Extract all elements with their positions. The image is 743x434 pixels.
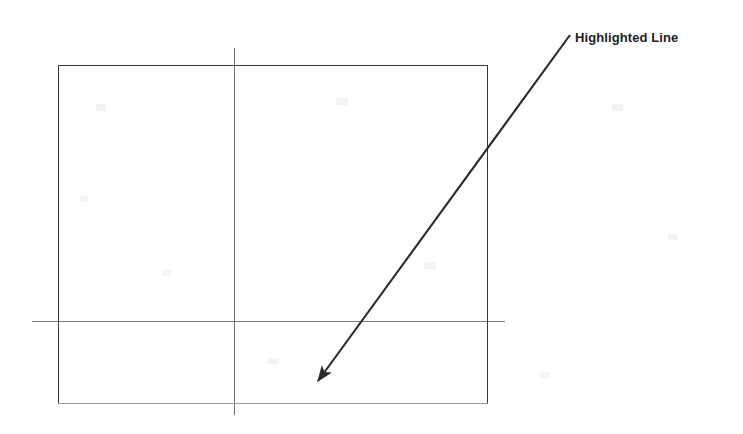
diagram-canvas: Highlighted Line xyxy=(0,0,743,434)
highlighted-line-label: Highlighted Line xyxy=(575,30,678,46)
annotation-leader-line xyxy=(318,35,570,381)
diagram-drawing xyxy=(0,0,743,434)
background-artifacts xyxy=(80,98,678,378)
